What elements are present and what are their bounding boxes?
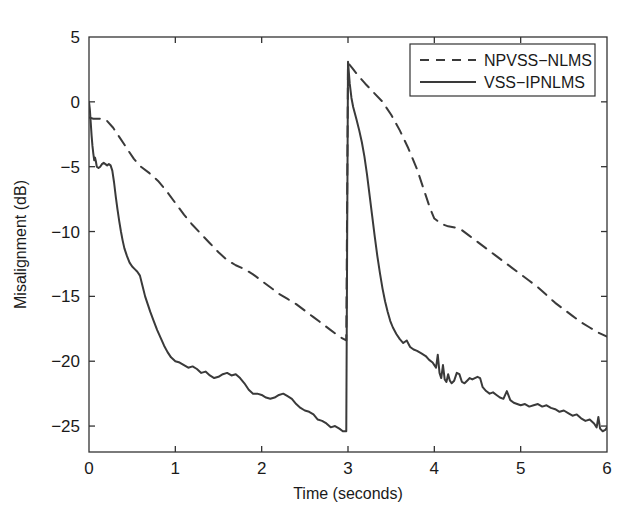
x-tick-label: 3 (343, 459, 352, 478)
x-tick-label: 5 (516, 459, 525, 478)
y-tick-label: −20 (51, 352, 80, 371)
x-tick-label: 1 (171, 459, 180, 478)
legend-label-2: VSS−IPNLMS (484, 74, 585, 91)
x-axis-title: Time (seconds) (293, 485, 403, 502)
x-tick-label: 2 (257, 459, 266, 478)
y-axis-title: Misalignment (dB) (12, 180, 29, 309)
chart-figure: 012345650−5−10−15−20−25Time (seconds)Mis… (0, 0, 639, 517)
x-tick-label: 6 (602, 459, 611, 478)
y-tick-label: −5 (61, 158, 80, 177)
plot-area: 012345650−5−10−15−20−25Time (seconds)Mis… (0, 0, 639, 517)
y-tick-label: −15 (51, 287, 80, 306)
legend-label-1: NPVSS−NLMS (484, 52, 592, 69)
x-tick-label: 4 (430, 459, 439, 478)
y-tick-label: 5 (71, 28, 80, 47)
y-tick-label: 0 (71, 93, 80, 112)
y-tick-label: −10 (51, 223, 80, 242)
x-tick-label: 0 (84, 459, 93, 478)
series-line-vss-ipnlms (89, 62, 607, 432)
y-tick-label: −25 (51, 417, 80, 436)
